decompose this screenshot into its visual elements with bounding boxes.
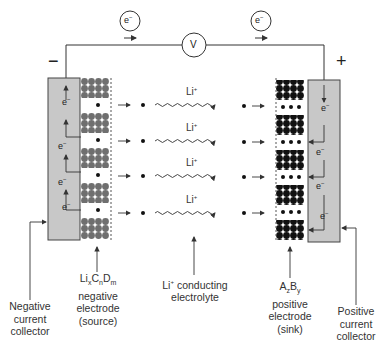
positive-current-collector-label: Positive current collector: [330, 305, 382, 343]
neg-collector-electron-2: e−: [58, 140, 67, 151]
negative-electrode-formula: LixCnDm: [72, 272, 124, 290]
pos-collector-electron-3: e−: [316, 180, 325, 191]
electrolyte-label: Li+ conducting electrolyte: [158, 276, 232, 304]
pos-collector-electron-1: e−: [321, 102, 330, 113]
electron-label-right: e−: [255, 14, 264, 25]
neg-collector-electron-4: e−: [62, 201, 71, 212]
ion-row-1: [118, 103, 264, 108]
ion-row-2: [118, 139, 264, 144]
negative-current-collector-label: Negative current collector: [4, 300, 56, 338]
neg-collector-electron-1: e−: [62, 96, 71, 107]
positive-electrode-formula: AzBy: [264, 280, 316, 298]
negative-electrode: [81, 78, 111, 240]
negative-electrode-label: LixCnDm negative electrode (source): [72, 272, 124, 327]
li-ion-label-1: Li+: [186, 86, 197, 97]
neg-collector-electron-3: e−: [58, 176, 67, 187]
electron-label-left: e−: [124, 14, 133, 25]
pos-collector-electron-2: e−: [316, 146, 325, 157]
positive-electrode: [276, 78, 308, 240]
li-ion-label-4: Li+: [186, 194, 197, 205]
pos-collector-electron-4: e−: [320, 210, 329, 221]
negative-terminal-symbol: −: [48, 52, 59, 70]
li-ion-label-2: Li+: [186, 122, 197, 133]
li-ion-label-3: Li+: [186, 157, 197, 168]
positive-terminal-symbol: +: [336, 52, 347, 70]
ion-row-3: [118, 174, 264, 179]
positive-electrode-label: AzBy positive electrode (sink): [264, 280, 316, 335]
voltmeter-label: V: [190, 39, 197, 50]
ion-row-4: [118, 211, 264, 215]
